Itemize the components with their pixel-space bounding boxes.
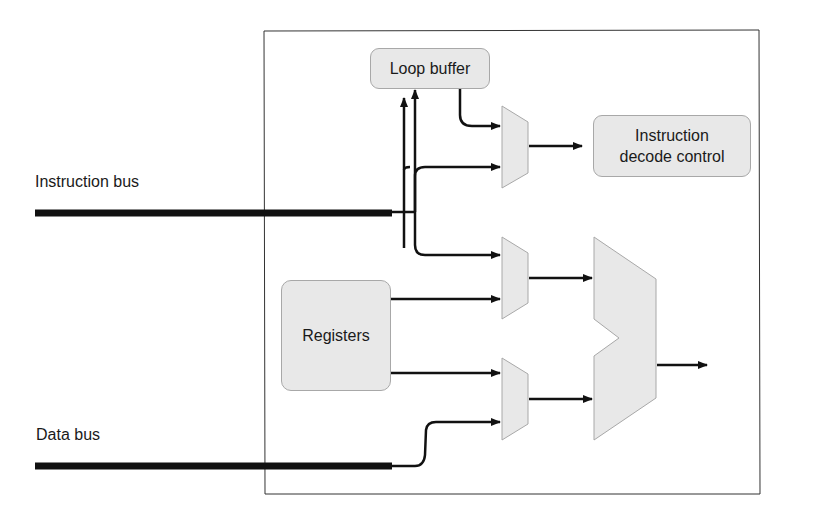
data-bus-label: Data bus <box>36 426 100 444</box>
decode-label-line2: decode control <box>620 146 725 167</box>
loop-buffer-output-wire <box>460 89 500 126</box>
alu-input-mux-a <box>502 237 528 319</box>
alu-shape <box>594 237 656 440</box>
loop-buffer-label: Loop buffer <box>390 58 471 79</box>
instruction-bus-wires <box>392 90 500 255</box>
instruction-decode-control-block: Instruction decode control <box>593 115 751 177</box>
instruction-bus-label: Instruction bus <box>35 173 139 191</box>
registers-label: Registers <box>302 325 370 346</box>
registers-block: Registers <box>281 280 391 391</box>
data-bus-to-mux-b-wire <box>392 422 500 466</box>
instruction-mux <box>502 106 528 188</box>
alu-input-mux-b <box>502 358 528 440</box>
loop-buffer-block: Loop buffer <box>370 48 490 89</box>
decode-label-line1: Instruction <box>635 125 709 146</box>
